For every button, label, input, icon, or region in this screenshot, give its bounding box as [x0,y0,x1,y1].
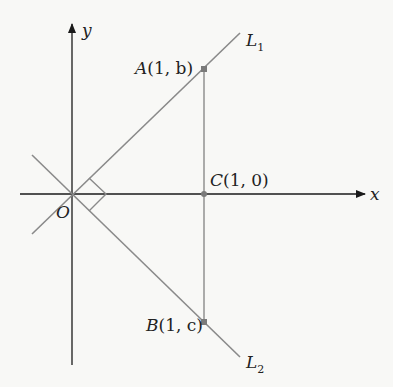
x-axis-label: x [370,184,380,204]
line-l2 [32,155,240,357]
origin-label: O [56,202,70,222]
line-l2-label: L2 [245,352,264,376]
point-c-label: C(1, 0) [210,170,269,190]
point-b-label: B(1, c) [145,315,203,335]
perpendicular-lines-diagram: y x O L1 L2 A(1, b) C(1, 0) B(1, c) [0,0,393,387]
point-c [201,191,207,197]
diagram-canvas: y x O L1 L2 A(1, b) C(1, 0) B(1, c) [0,0,393,387]
line-l1-label: L1 [245,30,264,54]
y-axis-label: y [81,20,92,40]
point-a-label: A(1, b) [133,58,193,78]
point-a [201,66,207,72]
